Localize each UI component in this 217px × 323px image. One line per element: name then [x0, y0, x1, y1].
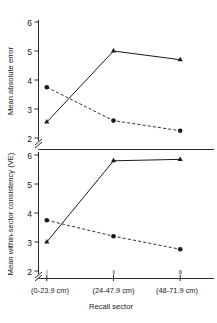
upper-series-solid-line: [47, 51, 180, 122]
x-axis-group: I II III (0-23.9 cm) (24-47.9 cm) (48-71…: [31, 269, 214, 311]
lower-panel: 6 5 4 3 2 Mean within-sector consistency…: [6, 151, 183, 282]
upper-series-dashed-line: [47, 87, 180, 131]
upper-marker-circle-2: [111, 118, 116, 123]
upper-ytick-label-6: 6: [27, 18, 32, 28]
lower-series-solid-line: [47, 159, 180, 242]
lower-marker-circle-3: [178, 247, 183, 252]
upper-ytick-label-5: 5: [27, 47, 32, 57]
x-category-label-1: (0-23.9 cm): [31, 286, 69, 295]
x-category-label-3: (48-71.9 cm): [156, 286, 198, 295]
lower-marker-triangle-3: [178, 156, 183, 161]
upper-y-axis-title: Mean absolute error: [6, 47, 15, 115]
chart-svg: 6 5 4 3 2 Mean absolute error: [0, 0, 217, 323]
lower-ytick-label-2: 2: [27, 267, 32, 277]
lower-marker-triangle-2: [111, 158, 116, 163]
x-tick-roman-3: III: [179, 269, 182, 275]
x-tick-roman-2: II: [112, 269, 114, 275]
lower-ytick-label-5: 5: [27, 180, 32, 190]
upper-marker-triangle-2: [111, 48, 116, 53]
figure-container: 6 5 4 3 2 Mean absolute error: [0, 0, 217, 323]
lower-marker-circle-1: [45, 218, 50, 223]
x-tick-roman-1: I: [46, 269, 47, 275]
upper-ytick-label-3: 3: [27, 105, 32, 115]
lower-ytick-label-4: 4: [27, 209, 32, 219]
lower-ytick-label-3: 3: [27, 238, 32, 248]
upper-marker-circle-1: [45, 85, 50, 90]
lower-marker-circle-2: [111, 234, 116, 239]
upper-panel: 6 5 4 3 2 Mean absolute error: [6, 18, 183, 149]
upper-marker-circle-3: [178, 128, 183, 133]
upper-ytick-label-2: 2: [27, 134, 32, 144]
upper-ytick-label-4: 4: [27, 76, 32, 86]
x-category-label-2: (24-47.9 cm): [93, 286, 135, 295]
lower-y-axis-title: Mean within-sector consistency (VE): [6, 152, 15, 275]
lower-ytick-label-6: 6: [27, 151, 32, 161]
x-axis-title: Recall sector: [89, 302, 133, 311]
